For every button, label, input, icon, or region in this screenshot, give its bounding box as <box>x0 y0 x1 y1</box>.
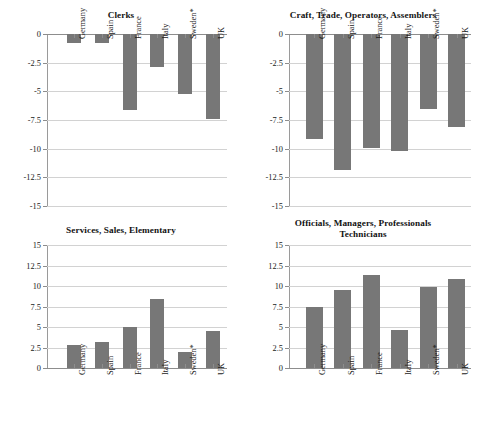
y-tick-label: 15 <box>275 241 283 250</box>
y-tick-label: 10 <box>275 282 283 291</box>
y-tick <box>285 206 289 207</box>
category-label: Italy <box>161 360 170 375</box>
category-label: Spain <box>106 356 115 375</box>
plot-area-craft: 0-2.5-5-7.5-10-12.5-15 GermanySpainFranc… <box>289 34 471 206</box>
x-tick <box>314 364 315 368</box>
category-label: UK <box>461 27 470 39</box>
y-tick <box>285 368 289 369</box>
y-tick-label: -2.5 <box>28 58 41 67</box>
category-label: Sweden* <box>189 344 198 375</box>
x-tick <box>314 34 315 38</box>
chart-title-officials: Officials, Managers, Professionals Techn… <box>242 218 484 240</box>
x-tick <box>213 34 214 38</box>
bar-germany <box>306 34 323 139</box>
gridline <box>47 206 227 207</box>
category-label: France <box>134 352 143 375</box>
category-label: France <box>375 352 384 375</box>
y-tick-label: 12.5 <box>268 261 283 270</box>
bar-italy <box>150 299 164 368</box>
category-label: UK <box>461 363 470 375</box>
chart-title-officials-line1: Officials, Managers, Professionals <box>295 218 431 228</box>
x-tick <box>400 364 401 368</box>
category-label: Sweden* <box>189 8 198 39</box>
bars-craft <box>289 34 471 206</box>
y-tick-label: -12.5 <box>266 173 283 182</box>
y-tick-label: 0 <box>37 364 41 373</box>
category-label: Spain <box>106 20 115 39</box>
y-tick-label: 5 <box>279 323 283 332</box>
chart-title-clerks: Clerks <box>0 10 242 21</box>
x-tick <box>400 34 401 38</box>
y-tick-label: -5 <box>276 87 283 96</box>
y-tick-label: 0 <box>279 30 283 39</box>
y-tick-label: 2.5 <box>273 343 283 352</box>
plot-area-clerks: 0-2.5-5-7.5-10-12.5-15 GermanySpainFranc… <box>47 34 227 206</box>
x-tick <box>157 364 158 368</box>
category-label: Spain <box>347 356 356 375</box>
plot-area-officials: 1512.5107.552.50 GermanySpainFranceItaly… <box>289 245 471 368</box>
y-tick-label: 12.5 <box>26 261 41 270</box>
x-tick <box>130 364 131 368</box>
y-tick-label: -10 <box>272 144 283 153</box>
bar-sweden <box>420 34 437 109</box>
category-label: Sweden* <box>432 344 441 375</box>
y-tick-label: 0 <box>37 30 41 39</box>
chart-title-craft: Craft, Trade, Operators, Assemblers <box>242 10 484 21</box>
y-tick-label: 15 <box>33 241 41 250</box>
x-tick <box>343 34 344 38</box>
x-tick <box>343 364 344 368</box>
category-label: Germany <box>78 344 87 375</box>
bar-uk <box>448 279 465 368</box>
x-tick <box>130 34 131 38</box>
chart-title-services: Services, Sales, Elementary <box>0 225 242 236</box>
y-tick-label: -5 <box>34 87 41 96</box>
chart-panel-clerks: Clerks 0-2.5-5-7.5-10-12.5-15 GermanySpa… <box>0 0 242 216</box>
x-tick <box>457 34 458 38</box>
chart-panel-services: Services, Sales, Elementary 1512.5107.55… <box>0 216 242 433</box>
x-tick <box>74 364 75 368</box>
chart-panel-craft: Craft, Trade, Operators, Assemblers 0-2.… <box>242 0 484 216</box>
y-tick-label: -15 <box>30 202 41 211</box>
bars-officials <box>289 245 471 368</box>
x-tick <box>371 34 372 38</box>
figure-canvas: Clerks 0-2.5-5-7.5-10-12.5-15 GermanySpa… <box>0 0 484 433</box>
x-tick <box>157 34 158 38</box>
plot-area-services: 1512.5107.552.50 GermanySpainFranceItaly… <box>47 245 227 368</box>
y-tick-label: -15 <box>272 202 283 211</box>
y-tick-label: 2.5 <box>31 343 41 352</box>
y-tick <box>43 206 47 207</box>
bar-uk <box>448 34 465 127</box>
bars-clerks <box>47 34 227 206</box>
chart-title-officials-line2: Technicians <box>242 229 484 240</box>
x-tick <box>74 34 75 38</box>
category-label: Italy <box>404 360 413 375</box>
bar-uk <box>206 34 220 119</box>
x-tick <box>457 364 458 368</box>
x-tick <box>428 34 429 38</box>
y-tick-label: -10 <box>30 144 41 153</box>
x-tick <box>371 364 372 368</box>
gridline <box>289 206 471 207</box>
bar-italy <box>391 34 408 151</box>
x-tick <box>213 364 214 368</box>
bar-sweden <box>178 34 192 94</box>
x-tick <box>102 364 103 368</box>
y-tick-label: -7.5 <box>270 116 283 125</box>
category-label: Italy <box>161 24 170 39</box>
x-tick <box>428 364 429 368</box>
y-tick-label: 7.5 <box>273 302 283 311</box>
y-tick-label: 5 <box>37 323 41 332</box>
category-label: Italy <box>404 24 413 39</box>
category-label: UK <box>217 363 226 375</box>
y-tick <box>43 368 47 369</box>
category-label: Germany <box>78 8 87 39</box>
x-tick <box>185 34 186 38</box>
bar-france <box>123 34 137 110</box>
chart-panel-officials: Officials, Managers, Professionals Techn… <box>242 216 484 433</box>
y-tick-label: 10 <box>33 282 41 291</box>
category-label: UK <box>217 27 226 39</box>
y-tick-label: -2.5 <box>270 58 283 67</box>
category-label: Germany <box>318 344 327 375</box>
category-label: Spain <box>347 20 356 39</box>
bar-france <box>363 34 380 148</box>
